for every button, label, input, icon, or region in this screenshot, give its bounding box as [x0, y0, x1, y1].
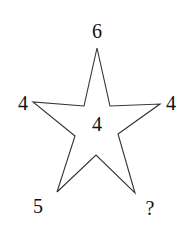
star-puzzle-diagram: 6 4 4 4 5 ?: [0, 0, 183, 226]
label-bottom-left: 5: [33, 195, 43, 217]
label-top: 6: [92, 20, 102, 42]
label-right: 4: [166, 92, 176, 114]
label-left: 4: [18, 92, 28, 114]
label-center: 4: [92, 113, 102, 135]
label-bottom-right-unknown: ?: [146, 197, 155, 219]
